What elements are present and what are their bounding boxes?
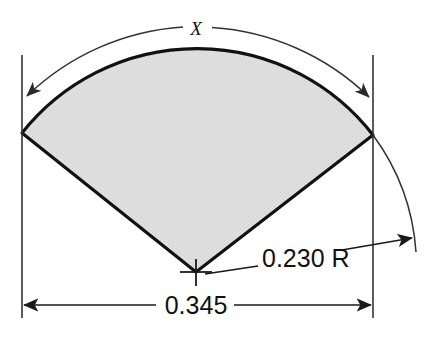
arc-length-label: X <box>189 18 203 39</box>
engineering-drawing: X 0.230 R 0.345 <box>0 0 439 340</box>
width-dimension-label: 0.345 <box>165 291 228 319</box>
radius-dimension-label: 0.230 R <box>262 244 350 272</box>
drawing-canvas: X 0.230 R 0.345 <box>0 0 439 340</box>
